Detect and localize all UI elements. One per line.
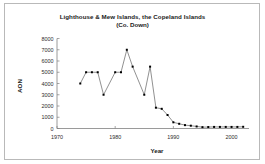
data-point (155, 107, 157, 109)
data-point (79, 83, 81, 85)
data-point (236, 126, 238, 128)
data-point (85, 71, 87, 73)
data-point (184, 124, 186, 126)
data-point (196, 125, 198, 127)
data-point (114, 71, 116, 73)
y-tick-label: 5000 (42, 69, 54, 75)
data-point (167, 114, 169, 116)
data-point (225, 126, 227, 128)
data-point (97, 71, 99, 73)
series-markers-aon (79, 49, 244, 128)
data-point (207, 126, 209, 128)
data-point (219, 126, 221, 128)
data-point (149, 66, 151, 68)
x-tick-label: 1970 (51, 134, 63, 140)
y-tick-label: 8000 (42, 36, 54, 42)
series-line-aon (80, 50, 243, 127)
data-point (213, 126, 215, 128)
data-point (242, 126, 244, 128)
data-point (143, 94, 145, 96)
data-point (91, 71, 93, 73)
y-tick-label: 7000 (42, 47, 54, 53)
y-tick-label: 3000 (42, 92, 54, 98)
y-tick-label: 0 (51, 126, 54, 132)
plot-area: 010002000300040005000600070008000 197019… (0, 0, 265, 164)
data-point (231, 126, 233, 128)
x-axis-title: Year (150, 147, 164, 154)
data-point (161, 108, 163, 110)
y-tick-label: 6000 (42, 58, 54, 64)
data-point (201, 126, 203, 128)
y-axis-title: AON (16, 79, 23, 93)
data-point (132, 66, 134, 68)
x-axis-tick-labels: 1970198019902000 (51, 134, 238, 140)
data-point (190, 125, 192, 127)
data-point (172, 121, 174, 123)
chart-figure: Lighthouse & Mew Islands, the Copeland I… (0, 0, 265, 164)
data-point (120, 71, 122, 73)
y-tick-label: 4000 (42, 81, 54, 87)
data-point (103, 94, 105, 96)
data-point (178, 123, 180, 125)
y-tick-label: 1000 (42, 114, 54, 120)
x-tick-label: 2000 (226, 134, 238, 140)
y-tick-label: 2000 (42, 103, 54, 109)
x-tick-label: 1980 (109, 134, 121, 140)
data-point (126, 49, 128, 51)
x-tick-label: 1990 (167, 134, 179, 140)
y-axis-tick-labels: 010002000300040005000600070008000 (42, 36, 54, 132)
